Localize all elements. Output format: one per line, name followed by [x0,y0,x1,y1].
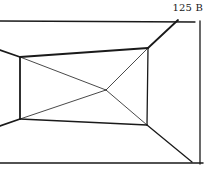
edge-top-left [0,50,20,57]
diagonal-bottom-left [20,90,106,119]
diagram-lines [0,0,211,171]
diagonal-top-right [106,48,148,90]
edge-bottom-left [0,119,20,126]
inner-right-edge [147,48,148,125]
edge-bottom-right [147,125,192,162]
diagonal-bottom-right [106,90,147,125]
inner-bottom-edge [20,119,147,125]
inner-top-edge [20,48,148,57]
edge-top-right [148,20,178,48]
perspective-diagram: 125 B [0,0,211,171]
diagonal-top-left [20,57,106,90]
frame-top-line [0,21,195,22]
